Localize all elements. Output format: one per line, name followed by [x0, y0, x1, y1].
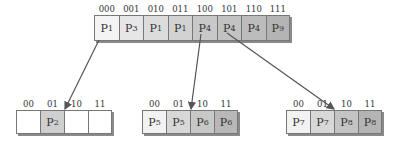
directory-cell: 000P1: [94, 15, 119, 41]
directory-cell: 101P4: [217, 15, 242, 41]
directory-cell: 100P4: [192, 15, 217, 41]
bucket-cell: 00P7: [286, 110, 310, 134]
bucket-cell: 01P7: [310, 110, 334, 134]
cell-label: 000: [95, 4, 119, 14]
cell-label: 010: [144, 4, 168, 14]
bucket-cell: 01P5: [166, 110, 190, 134]
directory-cell: 010P1: [143, 15, 168, 41]
directory-cell: 011P1: [168, 15, 193, 41]
bucket-cell: 01P2: [40, 110, 64, 134]
cell-label: 101: [218, 4, 242, 14]
bucket-array-2: 00P5 01P5 10P6 11P6: [142, 110, 238, 134]
bucket-cell: 11P8: [358, 110, 382, 134]
bucket-array-1: 00 01P2 10 11: [16, 110, 112, 134]
directory-cell: 110P4: [241, 15, 266, 41]
cell-label: 011: [169, 4, 193, 14]
bucket-cell: 00P5: [142, 110, 166, 134]
directory-cell: 111P9: [266, 15, 291, 41]
cell-label: 100: [193, 4, 217, 14]
directory-cell: 001P3: [119, 15, 144, 41]
arrow-100-to-bucket-2: [191, 34, 201, 109]
cell-label: 110: [242, 4, 266, 14]
bucket-cell: 10P6: [190, 110, 214, 134]
bucket-cell: 10: [64, 110, 88, 134]
bucket-cell: 11P6: [214, 110, 238, 134]
bucket-cell: 11: [88, 110, 112, 134]
bucket-array-3: 00P7 01P7 10P8 11P8: [286, 110, 382, 134]
bucket-cell: 10P8: [334, 110, 358, 134]
bucket-cell: 00: [16, 110, 40, 134]
cell-label: 111: [267, 4, 290, 14]
cell-label: 001: [120, 4, 144, 14]
directory-array: 000P1 001P3 010P1 011P1 100P4 101P4 110P…: [94, 15, 290, 41]
arrow-101-to-bucket-3: [227, 33, 334, 109]
